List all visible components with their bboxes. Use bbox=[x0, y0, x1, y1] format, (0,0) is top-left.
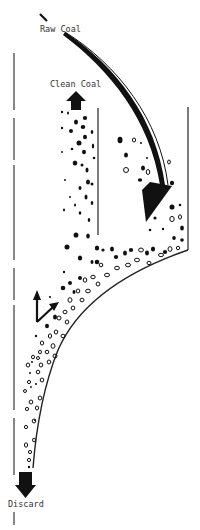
discard-label: Discard bbox=[8, 499, 44, 509]
discard-arrow-icon bbox=[15, 472, 36, 498]
small-refuse-dots bbox=[28, 361, 37, 468]
separator-diagram: Raw Coal Clean Coal Discard bbox=[0, 0, 200, 530]
raw-coal-arrow-icon bbox=[40, 14, 172, 222]
vessel-curve bbox=[33, 250, 188, 468]
clean-coal-arrow-icon bbox=[66, 91, 86, 110]
clean-coal-label: Clean Coal bbox=[50, 79, 101, 89]
raw-coal-label: Raw Coal bbox=[40, 24, 81, 34]
